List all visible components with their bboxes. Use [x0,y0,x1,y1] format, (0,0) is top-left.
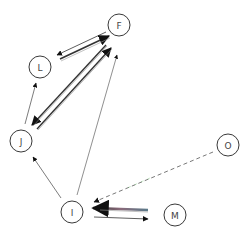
edge-f-l [57,32,110,61]
edge-j-l [25,83,36,124]
node-f[interactable]: F [108,14,130,36]
node-l[interactable]: L [29,56,51,78]
node-l-label: L [37,63,42,73]
edge-m-i [93,208,148,212]
edges [25,32,213,219]
node-o-label: O [224,141,231,151]
graph-diagram: F L J O I M [0,0,250,236]
node-j[interactable]: J [10,130,32,152]
edge-i-f [77,55,117,195]
node-i-label: I [71,208,74,218]
node-j-label: J [19,137,23,147]
node-m-label: M [171,211,179,221]
edge-i-m [94,217,148,219]
node-o[interactable]: O [217,134,239,156]
node-m[interactable]: M [164,204,186,226]
node-i[interactable]: I [61,201,83,223]
edge-i-j [33,157,61,198]
node-f-label: F [116,21,121,31]
edge-o-i [94,152,213,202]
